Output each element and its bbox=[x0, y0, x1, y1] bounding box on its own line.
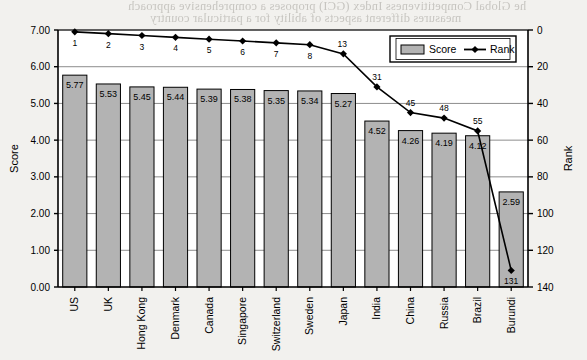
y-tick-label-right: 100 bbox=[537, 208, 554, 219]
bar-value-label: 4.52 bbox=[368, 126, 386, 136]
rank-value-label: 13 bbox=[338, 39, 348, 49]
bar-group bbox=[130, 87, 154, 287]
bar-group bbox=[264, 91, 288, 287]
bar-china bbox=[398, 131, 422, 287]
bar-value-label: 4.19 bbox=[435, 138, 453, 148]
chart-figure: he Global Competitiveness Index (GCI) pr… bbox=[0, 0, 587, 360]
x-tick-label: China bbox=[404, 297, 416, 325]
bar-hong-kong bbox=[130, 87, 154, 287]
rank-value-label: 7 bbox=[274, 49, 279, 59]
bar-value-label: 5.34 bbox=[301, 96, 319, 106]
y-tick-label-left: 6.00 bbox=[31, 61, 51, 72]
rank-value-label: 31 bbox=[372, 72, 382, 82]
x-tick-label: Canada bbox=[203, 297, 215, 334]
x-tick-label: Japan bbox=[337, 297, 349, 326]
score-rank-combo-chart: 5.775.535.455.445.395.385.355.345.274.52… bbox=[0, 0, 587, 360]
y-tick-label-right: 80 bbox=[537, 171, 549, 182]
bar-value-label: 5.44 bbox=[167, 92, 185, 102]
x-tick-label: US bbox=[68, 297, 80, 312]
bar-switzerland bbox=[264, 91, 288, 287]
bar-group bbox=[365, 121, 389, 287]
bar-us bbox=[63, 75, 87, 287]
rank-value-label: 48 bbox=[439, 103, 449, 113]
x-tick-label: Denmark bbox=[169, 296, 181, 339]
bar-value-label: 4.26 bbox=[402, 136, 420, 146]
y-axis-title-left: Score bbox=[8, 144, 20, 173]
y-tick-label-right: 40 bbox=[537, 98, 549, 109]
bar-singapore bbox=[231, 89, 255, 287]
bar-group bbox=[432, 133, 456, 287]
legend-swatch-score bbox=[401, 45, 424, 54]
bar-group bbox=[96, 84, 120, 287]
rank-value-label: 55 bbox=[473, 116, 483, 126]
rank-value-label: 5 bbox=[207, 45, 212, 55]
bar-value-label: 5.39 bbox=[200, 94, 218, 104]
bar-value-label: 4.12 bbox=[469, 141, 487, 151]
y-tick-label-left: 5.00 bbox=[31, 98, 51, 109]
bar-group bbox=[163, 87, 187, 287]
x-tick-label: India bbox=[370, 297, 382, 320]
bar-value-label: 5.77 bbox=[66, 80, 84, 90]
y-axis-title-right: Rank bbox=[562, 145, 574, 171]
bar-group bbox=[466, 136, 490, 287]
bar-canada bbox=[197, 89, 221, 287]
bar-group bbox=[231, 89, 255, 287]
y-tick-label-left: 3.00 bbox=[31, 171, 51, 182]
chart-legend: ScoreRank bbox=[390, 36, 516, 62]
rank-value-label: 131 bbox=[504, 276, 518, 286]
bar-value-label: 5.53 bbox=[100, 89, 118, 99]
y-tick-label-right: 0 bbox=[537, 25, 543, 36]
bar-group bbox=[331, 94, 355, 287]
bar-uk bbox=[96, 84, 120, 287]
x-tick-label: UK bbox=[102, 297, 114, 312]
y-tick-label-left: 2.00 bbox=[31, 208, 51, 219]
legend-label-score: Score bbox=[429, 43, 457, 55]
bar-russia bbox=[432, 133, 456, 287]
rank-value-label: 1 bbox=[72, 38, 77, 48]
bar-value-label: 5.38 bbox=[234, 94, 252, 104]
bar-denmark bbox=[163, 87, 187, 287]
y-tick-label-left: 1.00 bbox=[31, 245, 51, 256]
x-tick-label: Switzerland bbox=[270, 297, 282, 351]
y-tick-label-right: 140 bbox=[537, 282, 554, 293]
y-tick-label-right: 60 bbox=[537, 135, 549, 146]
y-tick-label-left: 4.00 bbox=[31, 135, 51, 146]
bar-group bbox=[197, 89, 221, 287]
x-tick-label: Hong Kong bbox=[135, 297, 147, 350]
x-tick-label: Brazil bbox=[471, 297, 483, 323]
x-tick-label: Burundi bbox=[505, 297, 517, 333]
bar-brazil bbox=[466, 136, 490, 287]
bar-sweden bbox=[298, 91, 322, 287]
rank-value-label: 2 bbox=[106, 40, 111, 50]
y-tick-label-left: 0.00 bbox=[31, 282, 51, 293]
bar-japan bbox=[331, 94, 355, 287]
bar-value-label: 2.59 bbox=[502, 197, 520, 207]
y-tick-label-right: 20 bbox=[537, 61, 549, 72]
bar-group bbox=[63, 75, 87, 287]
x-tick-label: Sweden bbox=[303, 297, 315, 335]
y-tick-label-left: 7.00 bbox=[31, 25, 51, 36]
rank-value-label: 4 bbox=[173, 43, 178, 53]
plot-background bbox=[58, 30, 528, 287]
bar-value-label: 5.35 bbox=[267, 96, 285, 106]
rank-value-label: 6 bbox=[240, 47, 245, 57]
x-tick-label: Russia bbox=[438, 297, 450, 329]
y-tick-label-right: 120 bbox=[537, 245, 554, 256]
rank-value-label: 45 bbox=[406, 98, 416, 108]
rank-value-label: 3 bbox=[140, 42, 145, 52]
rank-value-label: 8 bbox=[307, 51, 312, 61]
bar-group bbox=[398, 131, 422, 287]
bar-india bbox=[365, 121, 389, 287]
bar-group bbox=[298, 91, 322, 287]
legend-label-rank: Rank bbox=[490, 43, 515, 55]
bar-value-label: 5.27 bbox=[335, 99, 353, 109]
x-tick-label: Singapore bbox=[236, 297, 248, 345]
bar-value-label: 5.45 bbox=[133, 92, 151, 102]
